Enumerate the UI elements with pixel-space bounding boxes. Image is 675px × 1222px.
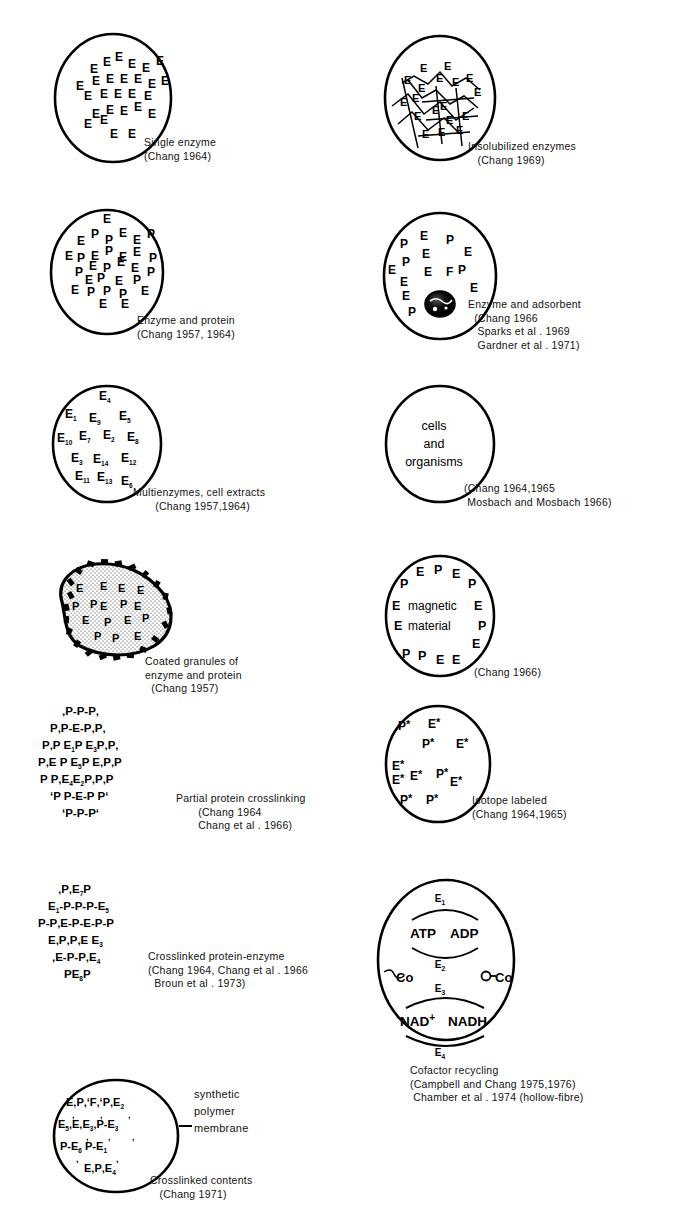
granule-speck [433, 307, 437, 311]
svg-text:E: E [100, 600, 107, 612]
svg-text:E: E [452, 653, 460, 667]
svg-text:E: E [134, 600, 141, 612]
svg-text:P‚E P E5P E‚P‚P: P‚E P E5P E‚P‚P [38, 756, 122, 770]
svg-text:P: P [402, 647, 410, 661]
svg-text:material: material [408, 619, 451, 633]
svg-text:‚: ‚ [86, 1132, 89, 1142]
svg-text:E: E [392, 599, 400, 613]
svg-text:E: E [156, 54, 164, 68]
svg-text:‚: ‚ [76, 1154, 79, 1164]
svg-text:P: P [104, 616, 111, 628]
svg-text:P: P [418, 649, 426, 663]
svg-text:P: P [142, 612, 149, 624]
svg-text:E: E [99, 297, 107, 311]
caption-enzyme-and-protein: Enzyme and protein (Chang 1957, 1964) [137, 314, 235, 341]
svg-text:‚: ‚ [108, 1132, 111, 1142]
caption-crosslinked-contents: Crosslinked contents (Chang 1971) [150, 1174, 252, 1201]
granule-speck [444, 306, 447, 309]
svg-text:P: P [468, 577, 476, 591]
svg-text:E: E [137, 584, 144, 596]
svg-text:E: E [121, 297, 129, 311]
magnetic-material-diagram: EPE PP EE EP E PPEE magnetic material [378, 548, 508, 683]
svg-text:‚: ‚ [116, 1154, 119, 1164]
svg-text:E: E [462, 110, 469, 122]
svg-text:E: E [106, 72, 114, 86]
panel-multienzymes: E4 E1 E9 E5 E10 E7 E2 E8 E3 E14 E12 E11 … [45, 382, 175, 512]
cofactor-right-label: Co [495, 970, 512, 985]
svg-text:E: E [120, 72, 128, 86]
svg-text:E: E [444, 60, 451, 72]
svg-text:P: P [408, 305, 416, 319]
svg-text:E: E [472, 637, 480, 651]
svg-text:E: E [100, 87, 108, 101]
svg-text:P-E6 P-E1: P-E6 P-E1 [60, 1140, 107, 1154]
svg-text:E: E [420, 229, 428, 243]
svg-text:E: E [133, 245, 141, 259]
svg-text:‚P-P-P‚: ‚P-P-P‚ [62, 705, 99, 717]
svg-text:P‚P-E-P‚P‚: P‚P-E-P‚P‚ [50, 722, 106, 734]
caption-enzyme-and-adsorbent: Enzyme and adsorbent (Chang 1966 Sparks … [468, 298, 581, 352]
enzyme-e4-label: E4 [435, 1047, 446, 1060]
svg-text:P: P [147, 265, 155, 279]
svg-text:‘P-P-P‘: ‘P-P-P‘ [62, 807, 99, 819]
svg-text:E: E [89, 259, 97, 273]
svg-text:E: E [142, 61, 150, 75]
svg-text:E: E [424, 265, 432, 279]
panel-crosslinked-contents: E‚P‚‘F‚‘P‚E2 E5‚E‚E3‚P-E3 P-E6 P-E1 E‚P‚… [42, 1078, 317, 1208]
svg-text:E: E [115, 274, 123, 288]
svg-text:P: P [91, 227, 99, 241]
svg-text:E: E [119, 226, 127, 240]
svg-text:P: P [149, 251, 157, 265]
svg-text:E: E [77, 234, 85, 248]
svg-text:E: E [76, 79, 84, 93]
svg-text:E: E [440, 100, 447, 112]
svg-text:E: E [436, 653, 444, 667]
svg-text:E: E [414, 110, 421, 122]
crosslink-rows: ‚P‚E7P E1-P-P-P-E5 P-P‚E-P-E-P-P E‚P‚P‚E… [38, 883, 114, 982]
svg-text:E: E [144, 89, 152, 103]
svg-text:E: E [134, 630, 141, 642]
caption-multienzymes: Multienzymes, cell extracts (Chang 1957,… [133, 486, 265, 513]
caption-insolubilized-enzymes: Insolubilized enzymes (Chang 1969) [468, 140, 576, 167]
panel-magnetic-material: EPE PP EE EP E PPEE magnetic material (C… [378, 548, 508, 683]
svg-text:P: P [112, 632, 119, 644]
atp-label: ATP [410, 926, 436, 941]
svg-text:E: E [124, 614, 131, 626]
svg-text:E: E [438, 126, 445, 138]
svg-text:E: E [432, 104, 439, 116]
nadh-label: NADH [448, 1014, 487, 1029]
svg-text:E: E [82, 614, 89, 626]
svg-text:E: E [416, 565, 424, 579]
svg-text:P: P [402, 255, 410, 269]
adsorbent-granule [425, 291, 455, 317]
svg-text:E: E [84, 89, 92, 103]
svg-text:P: P [133, 273, 141, 287]
svg-text:‚E-P-P‚E4: ‚E-P-P‚E4 [52, 951, 101, 965]
svg-text:E‚P‚P‚E E3: E‚P‚P‚E E3 [48, 934, 103, 948]
svg-text:P: P [103, 284, 111, 298]
svg-text:cells: cells [421, 419, 446, 433]
svg-text:P: P [87, 285, 95, 299]
svg-text:E: E [404, 74, 411, 86]
svg-text:E: E [400, 275, 408, 289]
svg-text:PE8P: PE8P [64, 968, 91, 982]
svg-text:E: E [128, 87, 136, 101]
svg-text:P: P [72, 600, 79, 612]
svg-text:E: E [120, 104, 128, 118]
svg-text:E: E [115, 50, 123, 64]
caption-coated-granules: Coated granules of enzyme and protein (C… [145, 655, 242, 696]
svg-text:E: E [128, 57, 136, 71]
svg-text:E: E [103, 55, 111, 69]
panel-single-enzyme: EEE EEE EEE EEE E EEE EE EEE EE EE EE Si… [48, 28, 178, 168]
svg-text:P: P [90, 598, 97, 610]
panel-cells-and-organisms: cells and organisms (Chang 1964,1965 Mos… [378, 382, 508, 512]
annotation-synthetic-polymer-membrane: synthetic polymer membrane [194, 1086, 249, 1137]
svg-text:E: E [141, 284, 149, 298]
svg-text:E: E [103, 212, 111, 226]
svg-text:P: P [478, 619, 486, 633]
caption-single-enzyme: Single enzyme (Chang 1964) [144, 136, 216, 163]
svg-text:P: P [75, 265, 83, 279]
panel-insolubilized-enzymes: EEE EEE EE EEE EEE EEE E Insolubilized e… [378, 28, 508, 168]
svg-text:‚: ‚ [132, 1132, 135, 1142]
svg-text:E1-P-P-P-E5: E1-P-P-P-E5 [48, 900, 109, 914]
